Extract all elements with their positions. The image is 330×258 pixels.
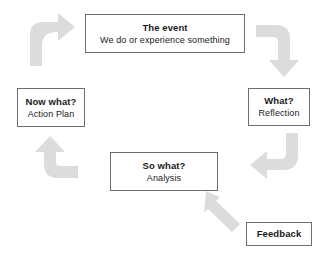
- node-what-title: What?: [264, 95, 294, 107]
- arrow-sowhat-to-nowwhat-icon: [35, 136, 78, 178]
- node-now-what-title: Now what?: [25, 96, 76, 108]
- node-so-what-subtitle: Analysis: [147, 172, 181, 184]
- node-so-what-title: So what?: [142, 160, 185, 172]
- arrow-what-to-sowhat-icon: [250, 133, 298, 179]
- diagram-canvas: The event We do or experience something …: [0, 0, 330, 258]
- node-what[interactable]: What? Reflection: [248, 88, 310, 126]
- node-now-what-subtitle: Action Plan: [28, 108, 75, 120]
- node-what-subtitle: Reflection: [258, 107, 299, 119]
- node-so-what[interactable]: So what? Analysis: [110, 152, 218, 191]
- node-feedback[interactable]: Feedback: [246, 222, 312, 246]
- node-feedback-title: Feedback: [257, 228, 302, 240]
- node-the-event[interactable]: The event We do or experience something: [85, 14, 245, 53]
- node-the-event-title: The event: [142, 22, 187, 34]
- arrow-event-to-what-icon: [256, 25, 299, 77]
- node-now-what[interactable]: Now what? Action Plan: [17, 88, 85, 127]
- node-the-event-subtitle: We do or experience something: [100, 34, 230, 46]
- arrow-feedback-to-sowhat-icon: [204, 191, 240, 232]
- arrow-nowwhat-to-event-icon: [30, 13, 75, 66]
